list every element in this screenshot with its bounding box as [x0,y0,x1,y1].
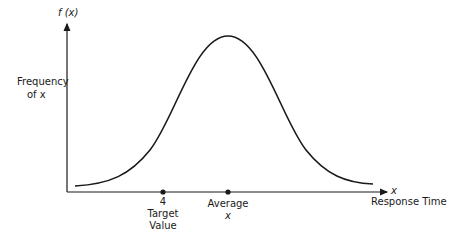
target-value-dot [160,189,165,194]
y-axis-label: f (x) [58,7,78,19]
average-dot [225,189,230,194]
target-label: Target [143,208,183,220]
average-label: Average [203,198,253,210]
y-axis-desc-line1: Frequency [17,76,69,88]
y-axis-desc-line2: of x [27,89,46,101]
average-x-label: x [203,210,253,222]
bell-curve [75,36,373,186]
x-axis-desc: Response Time [371,196,447,208]
target-value-number: 4 [143,196,183,208]
value-label: Value [143,220,183,232]
